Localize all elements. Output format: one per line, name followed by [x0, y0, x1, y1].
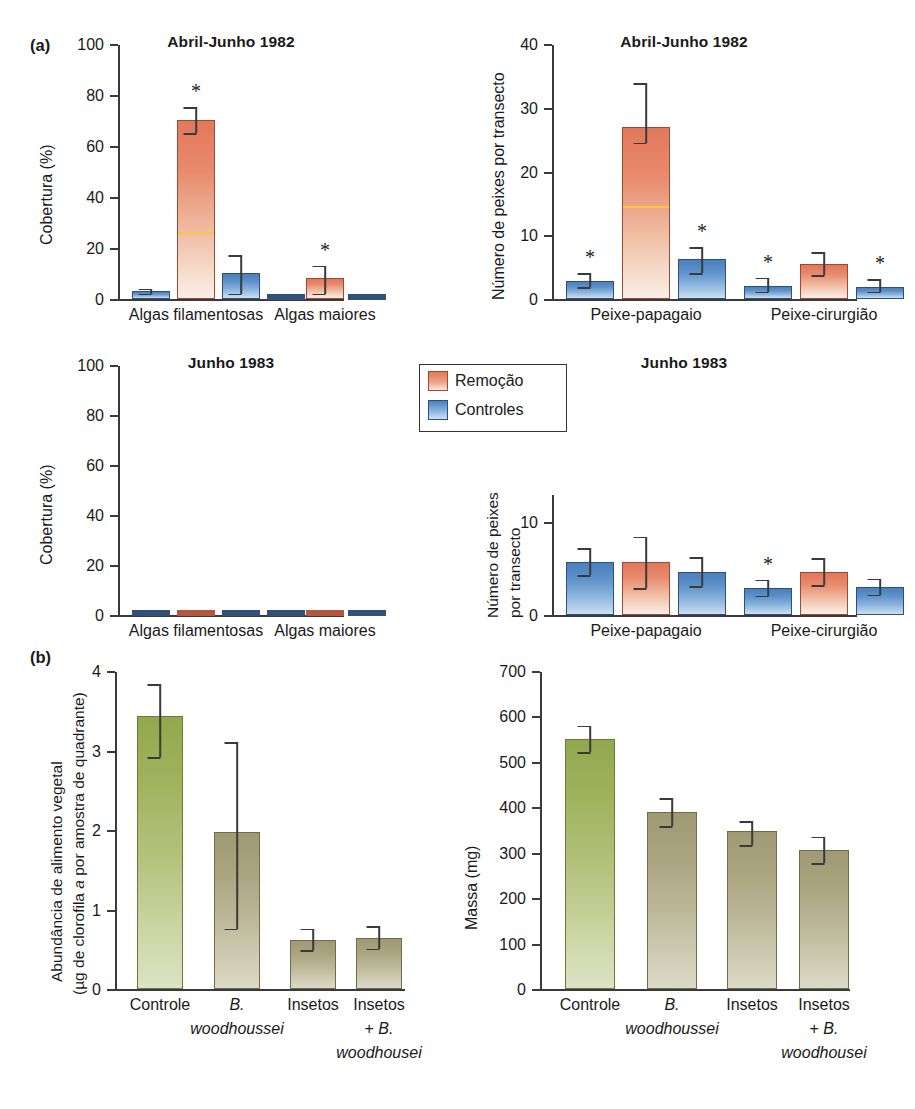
- y-axis-tick-label: 60: [86, 457, 104, 475]
- error-bar: [159, 684, 161, 757]
- bar-removal: [177, 120, 215, 299]
- error-bar-cap-top: [577, 726, 590, 728]
- bar-controls: [348, 610, 386, 616]
- y-axis-tick-label: 20: [86, 557, 104, 575]
- error-bar: [767, 278, 769, 292]
- significance-asterisk: *: [763, 554, 773, 574]
- plot-area-plant-food: 01234ControleB.woodhousseiInsetosInsetos…: [115, 672, 405, 990]
- legend: Remoção Controles: [419, 364, 567, 432]
- error-bar-cap-bottom: [867, 595, 880, 597]
- significance-asterisk: *: [320, 240, 330, 260]
- y-axis-tick-label: 0: [517, 981, 526, 999]
- y-axis-tick-label: 0: [529, 291, 538, 309]
- error-bar-cap-bottom: [633, 143, 646, 145]
- error-bar-cap-top: [147, 684, 160, 686]
- y-axis-tick: [107, 830, 115, 832]
- error-bar-cap-top: [867, 579, 880, 581]
- significance-asterisk: *: [763, 252, 773, 272]
- y-axis-label-cover-1983: Cobertura (%): [38, 465, 56, 565]
- legend-item-controls: Controles: [428, 400, 523, 420]
- y-axis-tick-label: 100: [77, 357, 104, 375]
- plot-area-fish-1983: 010*Peixe-papagaioPeixe-cirurgião: [552, 495, 857, 616]
- bar-green: [565, 739, 615, 989]
- significance-asterisk: *: [585, 247, 595, 267]
- error-bar: [879, 279, 881, 292]
- y-axis-label-mass: Massa (mg): [463, 846, 481, 930]
- error-bar-cap-bottom: [811, 585, 824, 587]
- bar-removal: [177, 610, 215, 616]
- error-bar-cap-bottom: [659, 826, 672, 828]
- x-axis-category-label: Algas filamentosas: [129, 622, 263, 640]
- legend-label-controls: Controles: [455, 401, 523, 419]
- y-axis-tick: [110, 615, 118, 617]
- bar-tan: [799, 850, 849, 989]
- bar-controls: [132, 610, 170, 616]
- x-axis-line: [552, 299, 857, 301]
- chart-title-fish-1983: Junho 1983: [641, 354, 727, 372]
- x-axis-category-label: Algas filamentosas: [129, 306, 263, 324]
- bar-controls: [222, 610, 260, 616]
- error-bar-cap-top: [224, 742, 237, 744]
- y-axis-tick-label: 0: [95, 607, 104, 625]
- x-axis-category-label: Peixe-cirurgião: [771, 622, 878, 640]
- y-axis-line: [115, 672, 117, 990]
- y-axis-tick: [110, 565, 118, 567]
- y-axis-tick: [110, 44, 118, 46]
- y-axis-tick: [544, 44, 552, 46]
- error-bar-cap-bottom: [867, 292, 880, 294]
- y-axis-tick-label: 30: [520, 100, 538, 118]
- error-bar-cap-bottom: [312, 294, 325, 296]
- x-axis-category-label: Insetos: [726, 996, 778, 1014]
- error-bar: [645, 83, 647, 142]
- y-axis-tick: [110, 415, 118, 417]
- bar-tan: [647, 812, 697, 989]
- y-axis-tick: [544, 615, 552, 617]
- error-bar: [823, 558, 825, 585]
- y-axis-tick-label: 1: [92, 902, 101, 920]
- error-bar-cap-top: [689, 557, 702, 559]
- error-bar: [312, 929, 314, 950]
- error-bar-cap-bottom: [224, 929, 237, 931]
- error-bar: [671, 798, 673, 826]
- x-axis-category-label: Peixe-cirurgião: [771, 306, 878, 324]
- error-bar-cap-bottom: [689, 586, 702, 588]
- y-axis-tick: [532, 807, 540, 809]
- y-axis-tick: [107, 989, 115, 991]
- bar-inner-divider: [178, 232, 214, 234]
- error-bar-cap-top: [300, 929, 313, 931]
- x-axis-category-label: B.: [664, 996, 679, 1014]
- y-axis-tick-label: 20: [86, 240, 104, 258]
- x-axis-line: [552, 615, 857, 617]
- y-axis-tick-label: 0: [529, 607, 538, 625]
- y-axis-tick-label: 100: [499, 936, 526, 954]
- error-bar-cap-bottom: [366, 949, 379, 951]
- y-axis-tick: [532, 853, 540, 855]
- error-bar-cap-bottom: [633, 588, 646, 590]
- y-axis-tick-label: 20: [520, 164, 538, 182]
- bar-inner-divider: [623, 206, 669, 208]
- x-axis-category-label: woodhousei: [781, 1044, 866, 1062]
- y-axis-tick: [532, 989, 540, 991]
- error-bar: [645, 537, 647, 588]
- y-axis-label-cover-1982: Cobertura (%): [38, 145, 56, 245]
- error-bar: [236, 742, 238, 929]
- y-axis-tick: [110, 365, 118, 367]
- y-axis-tick-label: 10: [520, 227, 538, 245]
- legend-label-removal: Remoção: [455, 372, 523, 390]
- y-axis-label-fish-1983-line1: Número de peixes: [484, 492, 502, 618]
- error-bar-cap-top: [577, 548, 590, 550]
- y-axis-tick: [107, 671, 115, 673]
- error-bar-cap-top: [138, 289, 151, 291]
- error-bar: [701, 557, 703, 586]
- y-axis-tick: [532, 716, 540, 718]
- error-bar-cap-top: [577, 273, 590, 275]
- error-bar: [879, 579, 881, 595]
- error-bar-cap-bottom: [811, 863, 824, 865]
- y-axis-tick-label: 80: [86, 87, 104, 105]
- x-axis-category-label: Peixe-papagaio: [590, 306, 701, 324]
- error-bar-cap-bottom: [739, 845, 752, 847]
- error-bar-cap-bottom: [577, 752, 590, 754]
- y-axis-tick: [532, 671, 540, 673]
- y-axis-tick-label: 60: [86, 138, 104, 156]
- y-axis-tick-label: 40: [86, 189, 104, 207]
